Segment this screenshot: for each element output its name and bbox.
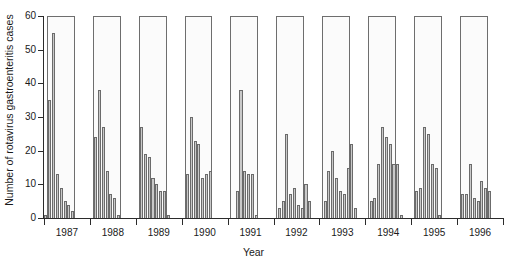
bar-1987-06 <box>64 201 67 218</box>
x-tick-mark-5 <box>274 219 275 225</box>
bar-1996-07 <box>480 181 483 218</box>
bar-1989-08 <box>163 191 166 218</box>
bar-1987-01 <box>44 215 47 218</box>
bar-1996-05 <box>473 198 476 218</box>
bar-1988-07 <box>113 198 116 218</box>
bar-1987-02 <box>48 100 51 218</box>
x-tick-label-1995: 1995 <box>414 227 454 239</box>
bar-1991-06 <box>247 174 250 218</box>
x-tick-label-1992: 1992 <box>276 227 316 239</box>
bar-1990-08 <box>209 171 212 218</box>
bar-1994-06 <box>385 137 388 218</box>
bar-1994-04 <box>377 164 380 218</box>
bar-1987-05 <box>60 188 63 218</box>
x-tick-label-1993: 1993 <box>322 227 362 239</box>
bar-1993-02 <box>324 201 327 218</box>
bar-1993-04 <box>331 151 334 218</box>
y-tick-mark-30 <box>38 117 43 118</box>
bar-1988-04 <box>102 127 105 218</box>
bar-1991-03 <box>236 191 239 218</box>
bar-1992-07 <box>297 205 300 218</box>
bar-1987-08 <box>71 211 74 218</box>
x-axis: Year 19871988198919901991199219931994199… <box>0 219 507 268</box>
bar-1991-08 <box>255 215 258 218</box>
plot-area <box>44 16 503 218</box>
y-tick-mark-10 <box>38 184 43 185</box>
x-tick-mark-8 <box>411 219 412 225</box>
bar-1993-08 <box>347 168 350 219</box>
x-tick-mark-4 <box>228 219 229 225</box>
x-tick-mark-9 <box>457 219 458 225</box>
x-tick-mark-2 <box>136 219 137 225</box>
bar-1992-03 <box>282 201 285 218</box>
bar-1992-06 <box>293 188 296 218</box>
bar-1994-02 <box>370 201 373 218</box>
y-tick-label-30: 30 <box>20 112 36 122</box>
bar-1991-07 <box>251 174 254 218</box>
bar-1994-10 <box>400 215 403 218</box>
bar-1996-09 <box>488 191 491 218</box>
bar-1988-08 <box>117 215 120 218</box>
bar-1995-04 <box>423 127 426 218</box>
bar-1995-03 <box>419 188 422 218</box>
bar-1989-04 <box>148 157 151 218</box>
bar-1995-06 <box>431 164 434 218</box>
bar-1994-08 <box>392 164 395 218</box>
x-tick-label-1988: 1988 <box>93 227 133 239</box>
x-tick-mark-1 <box>90 219 91 225</box>
bar-1994-05 <box>381 127 384 218</box>
bar-1994-03 <box>373 198 376 218</box>
x-tick-label-1987: 1987 <box>47 227 87 239</box>
bar-1990-06 <box>201 178 204 218</box>
bar-1987-04 <box>56 174 59 218</box>
bar-1990-03 <box>190 117 193 218</box>
y-tick-label-20: 20 <box>20 146 36 156</box>
bar-1996-04 <box>469 164 472 218</box>
bar-1988-06 <box>109 194 112 218</box>
y-tick-label-10: 10 <box>20 179 36 189</box>
bar-1996-08 <box>484 188 487 218</box>
bar-1996-03 <box>465 194 468 218</box>
season-box-1992 <box>276 16 304 218</box>
bar-1989-06 <box>155 184 158 218</box>
bar-1993-06 <box>339 191 342 218</box>
y-tick-label-50: 50 <box>20 45 36 55</box>
bar-1989-03 <box>144 154 147 218</box>
bar-1995-05 <box>427 134 430 218</box>
bar-1988-02 <box>94 137 97 218</box>
y-tick-label-60: 60 <box>20 11 36 21</box>
x-tick-mark-3 <box>182 219 183 225</box>
bar-1994-07 <box>389 144 392 218</box>
bar-1989-09 <box>167 215 170 218</box>
x-tick-mark-10 <box>503 219 504 225</box>
bar-1991-05 <box>243 171 246 218</box>
bar-1994-09 <box>396 164 399 218</box>
y-axis-title: Number of rotavirus gastroenteritis case… <box>2 1 16 219</box>
bar-1992-02 <box>278 208 281 218</box>
bar-1992-10 <box>308 201 311 218</box>
x-tick-mark-7 <box>365 219 366 225</box>
bar-1991-04 <box>239 90 242 218</box>
bar-1995-08 <box>438 215 441 218</box>
bar-1993-10 <box>354 208 357 218</box>
bar-1995-07 <box>435 168 438 219</box>
bar-1993-09 <box>350 144 353 218</box>
bar-1987-03 <box>52 33 55 218</box>
x-tick-label-1989: 1989 <box>139 227 179 239</box>
bar-1990-05 <box>197 144 200 218</box>
bar-1990-07 <box>205 174 208 218</box>
bar-1990-02 <box>186 174 189 218</box>
bar-1995-02 <box>415 191 418 218</box>
x-tick-label-1990: 1990 <box>185 227 225 239</box>
bar-1990-04 <box>194 141 197 218</box>
bar-1993-05 <box>335 178 338 218</box>
rotavirus-histogram-figure: Number of rotavirus gastroenteritis case… <box>0 0 507 268</box>
x-axis-title: Year <box>0 246 507 258</box>
bar-1992-08 <box>301 208 304 218</box>
x-tick-mark-6 <box>319 219 320 225</box>
bar-1987-07 <box>67 205 70 218</box>
bar-1988-03 <box>98 90 101 218</box>
bar-1988-05 <box>106 171 109 218</box>
bar-1989-05 <box>151 178 154 218</box>
bar-1992-05 <box>289 194 292 218</box>
